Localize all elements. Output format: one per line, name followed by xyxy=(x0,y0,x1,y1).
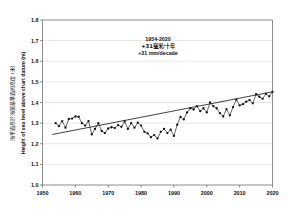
data-point xyxy=(215,107,217,109)
x-tick-label: 1980 xyxy=(135,190,147,196)
annotation-rate-cjk: +31毫米/十年 xyxy=(141,42,176,50)
x-tick-label: 1950 xyxy=(37,190,49,196)
data-point xyxy=(169,129,171,131)
data-point xyxy=(137,122,139,124)
data-point xyxy=(143,131,145,133)
data-point xyxy=(61,120,63,122)
x-tick-label: 2020 xyxy=(267,190,279,196)
data-point xyxy=(160,131,162,133)
data-point xyxy=(225,108,227,110)
data-point xyxy=(245,101,247,103)
data-point xyxy=(110,126,112,128)
data-point xyxy=(189,107,191,109)
data-point xyxy=(235,98,237,100)
data-point xyxy=(163,128,165,130)
data-point xyxy=(84,124,86,126)
data-point xyxy=(153,134,155,136)
data-point xyxy=(91,133,93,135)
data-point xyxy=(209,101,211,103)
y-tick-label: 1.6 xyxy=(31,58,39,64)
data-point xyxy=(212,105,214,107)
data-point xyxy=(77,116,79,118)
data-point xyxy=(196,105,198,107)
data-point xyxy=(265,93,267,95)
data-point xyxy=(94,128,96,130)
chart-background xyxy=(0,0,288,219)
data-point xyxy=(219,112,221,114)
data-point xyxy=(114,127,116,129)
data-point xyxy=(54,122,56,124)
data-point xyxy=(179,116,181,118)
data-point xyxy=(133,127,135,129)
x-tick-label: 2010 xyxy=(234,190,246,196)
data-point xyxy=(176,124,178,126)
data-point xyxy=(255,93,257,95)
data-point xyxy=(229,114,231,116)
data-point xyxy=(123,120,125,122)
y-tick-label: 1.1 xyxy=(31,161,39,167)
y-tick-label: 1.3 xyxy=(31,120,39,126)
x-tick-label: 2000 xyxy=(201,190,213,196)
data-point xyxy=(64,127,66,129)
y-tick-label: 1.0 xyxy=(31,182,39,188)
data-point xyxy=(97,122,99,124)
y-tick-label: 1.2 xyxy=(31,141,39,147)
y-tick-label: 1.8 xyxy=(31,17,39,23)
y-tick-label: 1.4 xyxy=(31,100,39,106)
data-point xyxy=(74,115,76,117)
data-point xyxy=(120,126,122,128)
data-point xyxy=(150,136,152,138)
data-point xyxy=(248,99,250,101)
data-point xyxy=(238,104,240,106)
data-point xyxy=(192,108,194,110)
data-point xyxy=(206,111,208,113)
data-point xyxy=(232,106,234,108)
data-point xyxy=(222,115,224,117)
data-point xyxy=(258,96,260,98)
y-tick-label: 1.7 xyxy=(31,38,39,44)
data-point xyxy=(68,118,70,120)
y-axis-title-cjk: 海平面高於海圖基準面的高度 (米) xyxy=(9,65,16,141)
y-axis-title: Height of sea level above chart datum (m… xyxy=(20,51,26,154)
x-tick-label: 1970 xyxy=(102,190,114,196)
data-point xyxy=(252,102,254,104)
x-tick-label: 1990 xyxy=(168,190,180,196)
data-point xyxy=(71,117,73,119)
data-point xyxy=(271,91,273,93)
data-point xyxy=(261,98,263,100)
data-point xyxy=(104,132,106,134)
data-point xyxy=(117,124,119,126)
data-point xyxy=(242,103,244,105)
data-point xyxy=(107,127,109,129)
data-point xyxy=(87,120,89,122)
data-point xyxy=(58,125,60,127)
data-point xyxy=(202,107,204,109)
data-point xyxy=(156,137,158,139)
data-point xyxy=(186,111,188,113)
data-point xyxy=(130,122,132,124)
annotation-period: 1954-2020 xyxy=(145,36,170,42)
y-tick-label: 1.5 xyxy=(31,79,39,85)
annotation-rate: +31 mm/decade xyxy=(138,50,178,56)
data-point xyxy=(166,132,168,134)
data-point xyxy=(127,128,129,130)
chart-canvas: 1.01.11.21.31.41.51.61.71.8 195019601970… xyxy=(0,0,288,219)
data-point xyxy=(100,130,102,132)
data-point xyxy=(173,135,175,137)
data-point xyxy=(146,132,148,134)
x-tick-label: 1960 xyxy=(69,190,81,196)
data-point xyxy=(81,122,83,124)
data-point xyxy=(183,118,185,120)
data-point xyxy=(268,95,270,97)
data-point xyxy=(199,110,201,112)
data-point xyxy=(140,124,142,126)
sea-level-chart: 1.01.11.21.31.41.51.61.71.8 195019601970… xyxy=(0,0,288,219)
